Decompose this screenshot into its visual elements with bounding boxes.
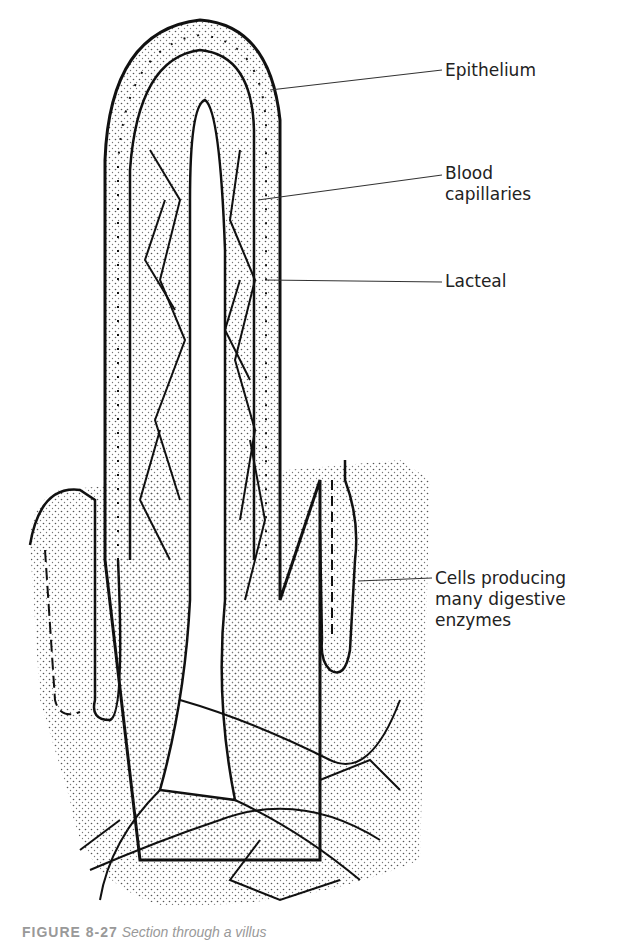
label-blood-capillaries-line2: capillaries xyxy=(445,184,531,205)
label-blood-capillaries: Blood capillaries xyxy=(445,163,531,205)
label-blood-capillaries-line1: Blood xyxy=(445,163,531,184)
label-epithelium: Epithelium xyxy=(445,60,536,81)
label-digestive-cells: Cells producing many digestive enzymes xyxy=(435,568,566,631)
label-digestive-cells-line1: Cells producing xyxy=(435,568,566,589)
label-lacteal: Lacteal xyxy=(445,271,507,292)
figure-caption: FIGURE 8-27 Section through a villus xyxy=(22,924,266,940)
figure-number: FIGURE 8-27 xyxy=(22,924,118,940)
label-digestive-cells-line3: enzymes xyxy=(435,610,566,631)
figure-caption-text: Section through a villus xyxy=(122,924,267,940)
label-digestive-cells-line2: many digestive xyxy=(435,589,566,610)
